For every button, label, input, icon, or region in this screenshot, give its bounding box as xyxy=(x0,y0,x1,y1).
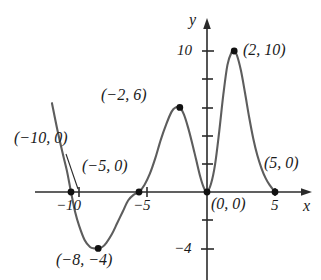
x-tick-label-minus10: −10 xyxy=(56,198,81,213)
point-label-minus2-6: (−2, 6) xyxy=(101,87,146,103)
x-axis-name: x xyxy=(303,198,310,214)
point-label-5-0: (5, 0) xyxy=(264,155,299,171)
point-label-minus8-minus4: (−8, −4) xyxy=(56,252,112,268)
y-axis-name: y xyxy=(189,12,196,28)
marked-points xyxy=(68,48,279,252)
point-label-minus10-0: (−10, 0) xyxy=(14,130,67,146)
data-point-marker xyxy=(231,48,238,55)
function-curve xyxy=(52,51,275,249)
graph-figure: (−10, 0) (−5, 0) (−2, 6) (−8, −4) (0, 0)… xyxy=(0,0,321,280)
x-axis xyxy=(35,188,312,196)
data-point-marker xyxy=(204,189,211,196)
x-tick-label-5: 5 xyxy=(271,198,279,213)
point-label-minus5-0: (−5, 0) xyxy=(82,158,127,174)
data-point-marker xyxy=(136,189,143,196)
point-label-origin: (0, 0) xyxy=(211,196,246,212)
y-axis xyxy=(203,18,211,280)
y-tick-label-10: 10 xyxy=(177,43,192,58)
data-point-marker xyxy=(272,189,279,196)
y-tick-label-minus4: −4 xyxy=(174,241,192,256)
data-point-marker xyxy=(68,189,75,196)
x-tick-label-minus5: −5 xyxy=(133,198,151,213)
point-label-2-10: (2, 10) xyxy=(243,42,286,58)
data-point-marker xyxy=(176,104,183,111)
